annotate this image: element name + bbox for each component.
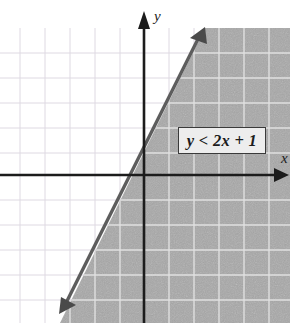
y-axis-label: y [154,8,161,25]
graph-canvas [0,0,290,323]
inequality-graph-figure: y x y < 2x + 1 [0,0,290,323]
inequality-label-text: y < 2x + 1 [187,131,257,151]
x-axis-label: x [281,150,288,167]
inequality-label-box: y < 2x + 1 [178,127,266,154]
